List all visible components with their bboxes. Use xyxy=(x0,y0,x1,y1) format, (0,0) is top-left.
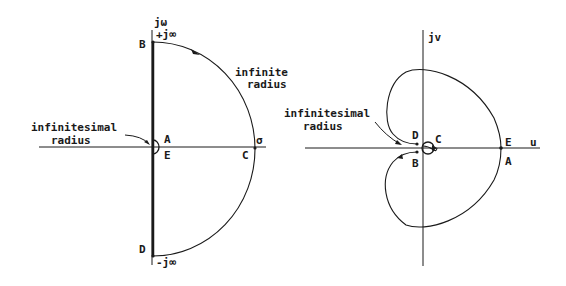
left-point-E-label: E xyxy=(164,149,171,162)
right-direction-arrowhead-lower xyxy=(397,154,403,159)
left-labels: jω +j∞ B infinite radius infinitesimal r… xyxy=(31,16,288,269)
left-point-D xyxy=(151,254,154,257)
left-infinite-label-2: radius xyxy=(247,78,287,91)
nyquist-figure: jω +j∞ B infinite radius infinitesimal r… xyxy=(0,0,566,286)
right-point-EA xyxy=(499,146,503,150)
left-diagram xyxy=(39,30,266,265)
right-point-D-label: D xyxy=(412,129,419,142)
right-annotation-arrow xyxy=(375,122,400,144)
left-top-label: +j∞ xyxy=(156,28,176,41)
left-bottom-label: -j∞ xyxy=(156,256,176,269)
left-point-A-label: A xyxy=(164,133,171,146)
left-point-C-label: C xyxy=(242,149,249,162)
right-point-C-label: C xyxy=(435,133,442,146)
right-point-A-label: A xyxy=(505,155,512,168)
right-lower-lobe xyxy=(385,148,501,227)
right-infinitesimal-label-1: infinitesimal xyxy=(284,107,370,120)
right-labels: jv infinitesimal radius D C B E A u xyxy=(284,31,537,170)
right-point-D xyxy=(415,142,418,145)
left-infinitesimal-label-2: radius xyxy=(51,134,91,147)
left-point-B-label: B xyxy=(139,38,146,51)
left-point-B xyxy=(151,40,154,43)
right-point-B-label: B xyxy=(412,157,419,170)
left-point-D-label: D xyxy=(139,243,146,256)
right-axis-jv-label: jv xyxy=(428,31,442,44)
left-axis-sigma-label: σ xyxy=(256,134,263,147)
right-axis-u-label: u xyxy=(530,136,537,149)
right-point-E-label: E xyxy=(505,136,512,149)
right-upper-lobe xyxy=(387,70,501,151)
right-infinitesimal-label-2: radius xyxy=(303,120,343,133)
left-infinitesimal-label-1: infinitesimal xyxy=(31,121,117,134)
right-point-B xyxy=(415,150,418,153)
